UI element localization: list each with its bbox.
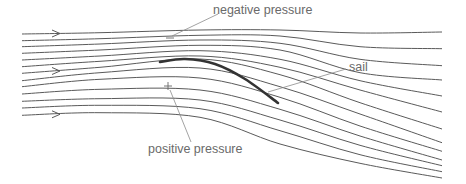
negative-pressure-leader-line bbox=[172, 14, 218, 36]
flow-arrows-group bbox=[52, 30, 60, 118]
streamline bbox=[22, 30, 442, 34]
sail-leader-line bbox=[268, 69, 346, 92]
streamline bbox=[22, 59, 442, 129]
negative-pressure-label: negative pressure bbox=[213, 4, 312, 17]
streamline bbox=[22, 77, 442, 152]
streamline bbox=[22, 35, 442, 49]
sail-label: sail bbox=[349, 61, 368, 74]
positive-pressure-label: positive pressure bbox=[148, 143, 243, 156]
sail-airflow-diagram bbox=[0, 0, 466, 184]
streamline bbox=[22, 105, 442, 171]
